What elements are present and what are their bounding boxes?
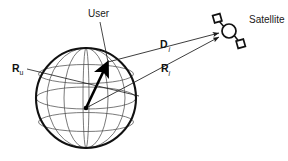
- ru-label-subscript: u: [20, 69, 24, 76]
- satellite-body: [222, 24, 236, 38]
- di-label-base: D: [160, 38, 168, 50]
- satellite-solar-panel-upper: [213, 14, 222, 23]
- earth-sphere: [36, 48, 136, 148]
- vector-R-i-shaft: [88, 37, 219, 107]
- satellite-geometry-figure: User Satellite R u D i R i: [0, 0, 288, 161]
- latitude-line-upper: [39, 65, 134, 84]
- meridian-line-left-2: [47, 48, 125, 148]
- satellite-icon: [213, 14, 246, 49]
- vector-R-i: [88, 37, 219, 107]
- sphere-outline: [36, 48, 136, 148]
- ri-label-subscript: i: [169, 70, 171, 77]
- user-label: User: [88, 8, 110, 19]
- di-label-subscript: i: [169, 46, 171, 53]
- meridian-lines: [47, 48, 125, 148]
- ru-label: R u: [12, 62, 24, 76]
- diagram-canvas: User Satellite R u D i R i: [0, 0, 288, 161]
- di-label: D i: [160, 38, 171, 53]
- meridian-line-left-1: [64, 48, 108, 148]
- user-leader-line: [100, 22, 108, 62]
- ri-label: R i: [161, 62, 171, 77]
- satellite-label: Satellite: [249, 14, 285, 25]
- latitude-line-lower: [39, 113, 134, 132]
- satellite-solar-panel-lower: [236, 39, 245, 48]
- meridian-line-center: [83, 48, 89, 148]
